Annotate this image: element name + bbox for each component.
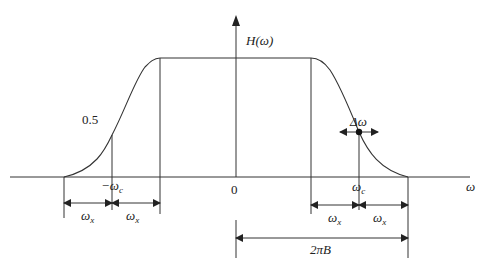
right-dim-label-2: ωx xyxy=(373,210,386,227)
y-axis-arrow-icon xyxy=(232,15,240,26)
cutoff-point-icon xyxy=(356,129,362,135)
x-axis-label: ω xyxy=(466,179,475,194)
right-dim-label-1: ωx xyxy=(328,210,341,227)
left-dim-label-1: ωx xyxy=(81,208,94,225)
pos-cutoff-label: ωc xyxy=(352,179,365,196)
bandwidth-label: 2πB xyxy=(310,242,331,257)
origin-label: 0 xyxy=(231,182,238,197)
left-dim-label-2: ωx xyxy=(126,208,139,225)
filter-diagram: H(ω) ω 0 0.5 Δω −ωc ωc ωx ωx ωx ωx 2πB xyxy=(0,0,486,272)
delta-omega-label: Δω xyxy=(349,114,367,129)
neg-cutoff-label: −ωc xyxy=(101,178,123,195)
y-axis-label: H(ω) xyxy=(245,33,273,48)
half-level-label: 0.5 xyxy=(82,112,98,127)
